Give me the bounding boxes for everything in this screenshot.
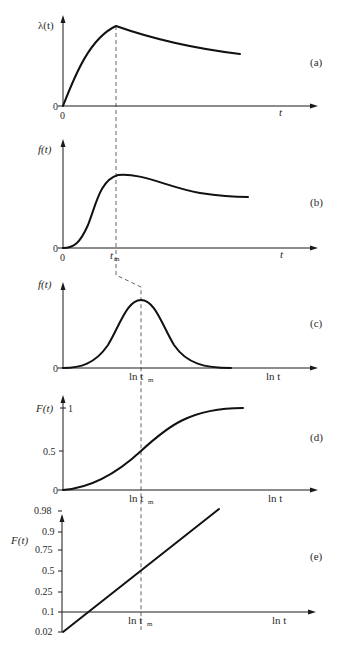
panel-b: f(t) 0 0 t m t (b)	[38, 139, 323, 263]
x-axis-label: t	[279, 106, 283, 118]
pdf-lnt-bell-curve	[63, 300, 231, 368]
y-axis-label: λ(t)	[38, 19, 54, 32]
x-axis-label: ln t	[266, 370, 280, 382]
origin-y-label: 0	[53, 101, 58, 112]
svg-text:m: m	[114, 255, 120, 263]
x-axis-label: t	[280, 248, 284, 260]
svg-text:ln t: ln t	[129, 492, 143, 504]
ln-tm-marker-label: ln t m	[129, 492, 154, 506]
ln-tm-marker-label: ln t m	[129, 370, 154, 384]
x-axis-arrow-icon	[310, 246, 318, 251]
panel-d: F(t) 1 0.5 0 ln t m ln t (d)	[35, 395, 323, 506]
x-axis-arrow-icon	[310, 488, 318, 493]
x-axis-arrow-icon	[310, 104, 318, 109]
panel-tag: (a)	[310, 56, 323, 69]
svg-text:m: m	[147, 620, 153, 628]
tick-label-0-5: 0.5	[42, 565, 55, 576]
x-axis-arrow-icon	[310, 366, 318, 371]
y-axis-label: F(t)	[35, 402, 53, 415]
tm-connector-dashed-line	[116, 26, 141, 630]
origin-x-label: 0	[60, 252, 65, 263]
tick-label-0-5: 0.5	[43, 446, 56, 457]
tick-label-0: 0	[53, 485, 58, 496]
pdf-curve	[63, 175, 248, 248]
y-axis-label: F(t)	[10, 534, 28, 547]
svg-text:ln t: ln t	[129, 370, 143, 382]
ln-tm-marker-label: ln t m	[128, 614, 153, 628]
svg-text:m: m	[148, 376, 154, 384]
cdf-sigmoid-curve	[63, 408, 243, 490]
tick-label-0-9: 0.9	[42, 526, 55, 537]
hazard-rate-curve	[63, 26, 240, 106]
svg-text:ln t: ln t	[128, 614, 142, 626]
probability-ticks	[58, 511, 62, 632]
origin-x-label: 0	[60, 110, 65, 121]
tick-label-0-1: 0.1	[42, 606, 55, 617]
y-axis-arrow-icon	[61, 282, 66, 290]
y-axis-label: f(t)	[38, 278, 52, 291]
tm-marker-label: t m	[110, 249, 120, 263]
tick-label-0-25: 0.25	[35, 586, 53, 597]
y-axis-arrow-icon	[61, 139, 66, 147]
tick-label-0-98: 0.98	[34, 505, 52, 516]
panel-c: f(t) 0 ln t m ln t (c)	[38, 278, 323, 384]
y-axis-label: f(t)	[38, 143, 52, 156]
x-axis-label: ln t	[268, 492, 282, 504]
tick-label-0-75: 0.75	[35, 544, 53, 555]
svg-text:m: m	[148, 498, 154, 506]
panel-e: 0.98 0.9 0.75 0.5 0.25 0.1 0.02 F(t) ln …	[10, 505, 323, 637]
panel-tag: (d)	[310, 431, 323, 444]
origin-y-label: 0	[53, 243, 58, 254]
y-axis-arrow-icon	[61, 395, 66, 403]
y-axis-arrow-icon	[61, 15, 66, 23]
y-axis-arrow-icon	[60, 514, 65, 522]
lognormal-figure: λ(t) 0 0 t (a) f(t) 0 0 t m t (b) f(t) 0…	[0, 0, 342, 651]
tick-label-1: 1	[68, 403, 73, 414]
origin-y-label: 0	[53, 363, 58, 374]
panel-tag: (b)	[310, 196, 323, 209]
panel-a: λ(t) 0 0 t (a)	[38, 15, 323, 121]
tick-label-0-02: 0.02	[35, 626, 53, 637]
panel-tag: (c)	[310, 317, 323, 330]
x-axis-label: ln t	[272, 614, 286, 626]
x-axis-arrow-icon	[308, 610, 316, 615]
panel-tag: (e)	[310, 550, 323, 563]
